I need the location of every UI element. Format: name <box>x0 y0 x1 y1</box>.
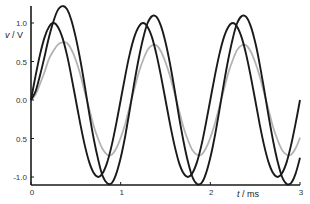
x-axis-unit: / ms <box>240 189 260 199</box>
voltage-time-chart: 1.00.50.00.5-1.00123 v / V t / ms <box>0 0 310 204</box>
x-tick-label: 3 <box>299 188 304 197</box>
x-tick-label: 0 <box>30 188 35 197</box>
y-tick-label: 0.0 <box>16 96 28 105</box>
y-axis-unit: / V <box>10 30 24 40</box>
series-layer <box>31 6 300 185</box>
x-axis-label: t / ms <box>237 189 260 199</box>
y-tick-label: 0.5 <box>16 58 28 67</box>
y-tick-label: 0.5 <box>16 135 28 144</box>
y-tick-label: -1.0 <box>13 173 27 182</box>
x-tick-label: 2 <box>209 188 214 197</box>
y-tick-label: 1.0 <box>16 19 28 28</box>
y-axis-label: v / V <box>5 30 23 40</box>
x-tick-label: 1 <box>119 188 124 197</box>
